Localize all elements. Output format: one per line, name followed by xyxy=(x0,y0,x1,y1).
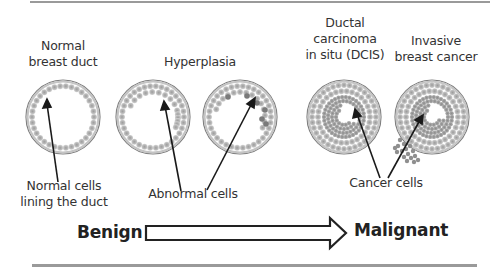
label-line: carcinoma xyxy=(295,31,395,47)
label-line: breast cancer xyxy=(388,49,484,65)
label-hyperplasia: Hyperplasia xyxy=(150,54,250,70)
label-invasive-breast-cancer: Invasive breast cancer xyxy=(388,33,484,65)
callout-normal-cells: Normal cells lining the duct xyxy=(14,178,114,210)
progression-arrow xyxy=(146,218,346,248)
label-normal-breast-duct: Normal breast duct xyxy=(20,38,106,70)
callout-line: lining the duct xyxy=(14,194,114,210)
label-line: Normal xyxy=(20,38,106,54)
label-dcis: Ductal carcinoma in situ (DCIS) xyxy=(295,15,395,63)
label-line: Invasive xyxy=(388,33,484,49)
callout-line: Normal cells xyxy=(14,178,114,194)
callout-abnormal-cells: Abnormal cells xyxy=(143,186,243,202)
callout-cancer-cells: Cancer cells xyxy=(336,175,436,191)
label-line: in situ (DCIS) xyxy=(295,47,395,63)
stage-benign: Benign xyxy=(77,222,143,242)
label-line: Ductal xyxy=(295,15,395,31)
callout-line: Abnormal cells xyxy=(143,186,243,202)
stage-malignant: Malignant xyxy=(354,220,448,240)
label-line: Hyperplasia xyxy=(150,54,250,70)
label-line: breast duct xyxy=(20,54,106,70)
callout-line: Cancer cells xyxy=(336,175,436,191)
